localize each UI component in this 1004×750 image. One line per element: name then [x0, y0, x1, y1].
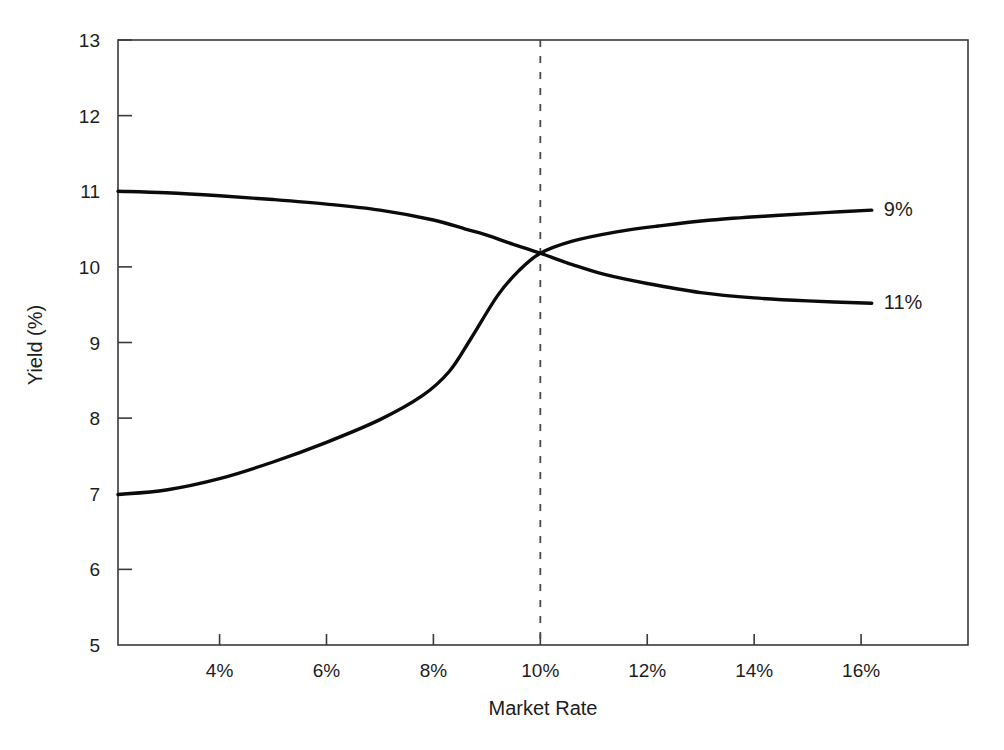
yield-vs-market-rate-chart: 4%6%8%10%12%14%16% 5678910111213 11% 9% … [0, 0, 1004, 750]
chart-figure: 4%6%8%10%12%14%16% 5678910111213 11% 9% … [0, 0, 1004, 750]
y-tick-label: 5 [89, 635, 100, 656]
y-tick-label: 13 [79, 30, 100, 51]
x-tick-label: 10% [521, 660, 559, 681]
x-tick-label: 4% [206, 660, 234, 681]
chart-background [0, 0, 1004, 750]
y-tick-label: 10 [79, 257, 100, 278]
x-tick-label: 8% [420, 660, 448, 681]
y-tick-label: 11 [80, 181, 100, 202]
series-end-label-11-percent: 11% [884, 291, 923, 313]
x-tick-label: 14% [735, 660, 773, 681]
y-tick-label: 8 [89, 408, 100, 429]
y-tick-label: 12 [79, 106, 100, 127]
y-tick-label: 7 [89, 484, 100, 505]
x-tick-label: 16% [842, 660, 880, 681]
x-axis-title: Market Rate [489, 697, 598, 719]
series-end-label-9-percent: 9% [884, 198, 913, 220]
y-tick-label: 6 [89, 559, 100, 580]
x-tick-label: 12% [628, 660, 666, 681]
x-tick-label: 6% [313, 660, 341, 681]
y-axis-title: Yield (%) [24, 305, 46, 385]
y-tick-label: 9 [89, 333, 100, 354]
